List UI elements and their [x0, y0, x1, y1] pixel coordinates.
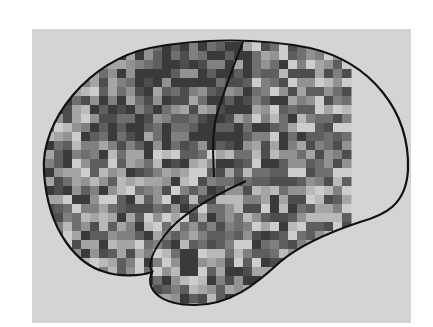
heatmap-cell [99, 168, 109, 178]
heatmap-cell [252, 213, 262, 223]
heatmap-cell [324, 123, 334, 133]
heatmap-cell [252, 51, 262, 61]
heatmap-cell [216, 285, 226, 295]
heatmap-cell [90, 168, 100, 178]
heatmap-cell [171, 60, 181, 70]
heatmap-cell [72, 168, 82, 178]
heatmap-cell [306, 168, 316, 178]
heatmap-cell [288, 123, 298, 133]
heatmap-cell [342, 186, 352, 196]
heatmap-cell [99, 150, 109, 160]
heatmap-cell [198, 249, 208, 259]
heatmap-cell [99, 222, 109, 232]
heatmap-cell [333, 177, 343, 187]
heatmap-cell [135, 186, 145, 196]
heatmap-cell [270, 249, 280, 259]
heatmap-cell [342, 96, 352, 106]
heatmap-cell [315, 150, 325, 160]
heatmap-cell [342, 177, 352, 187]
heatmap-cell [126, 87, 136, 97]
heatmap-cell [324, 114, 334, 124]
heatmap-cell [162, 159, 172, 169]
heatmap-cell [81, 114, 91, 124]
heatmap-cell [324, 78, 334, 88]
heatmap-cell [153, 132, 163, 142]
heatmap-cell [108, 114, 118, 124]
heatmap-cell [297, 69, 307, 79]
heatmap-cell [270, 132, 280, 142]
heatmap-cell [126, 150, 136, 160]
heatmap-cell [144, 141, 154, 151]
heatmap-cell [198, 132, 208, 142]
heatmap-cell [198, 177, 208, 187]
heatmap-cell [324, 141, 334, 151]
heatmap-cell [144, 96, 154, 106]
heatmap-cell [162, 78, 172, 88]
heatmap-cell [90, 186, 100, 196]
heatmap-cell [306, 78, 316, 88]
heatmap-cell [189, 240, 199, 250]
heatmap-cell [207, 285, 217, 295]
heatmap-cell [252, 114, 262, 124]
heatmap-cell [333, 78, 343, 88]
heatmap-cell [162, 141, 172, 151]
heatmap-cell [135, 195, 145, 205]
heatmap-cell [99, 114, 109, 124]
heatmap-cell [216, 78, 226, 88]
heatmap-cell [270, 177, 280, 187]
heatmap-cell [279, 78, 289, 88]
heatmap-cell [252, 132, 262, 142]
heatmap-cell [252, 168, 262, 178]
heatmap-cell [288, 69, 298, 79]
heatmap-cell [108, 87, 118, 97]
heatmap-cell [333, 150, 343, 160]
heatmap-cell [117, 177, 127, 187]
heatmap-cell [297, 51, 307, 61]
heatmap-cell [216, 150, 226, 160]
heatmap-cell [153, 123, 163, 133]
heatmap-cell [198, 222, 208, 232]
heatmap-cell [234, 96, 244, 106]
heatmap-cell [117, 132, 127, 142]
heatmap-cell [162, 69, 172, 79]
heatmap-cell [99, 159, 109, 169]
heatmap-cell [279, 195, 289, 205]
heatmap-cell [72, 186, 82, 196]
heatmap-cell [189, 276, 199, 286]
heatmap-cell [117, 114, 127, 124]
heatmap-cell [261, 96, 271, 106]
heatmap-cell [225, 105, 235, 115]
heatmap-cell [243, 186, 253, 196]
heatmap-cell [144, 132, 154, 142]
heatmap-cell [126, 249, 136, 259]
heatmap-cell [81, 150, 91, 160]
heatmap-cell [207, 51, 217, 61]
heatmap-cell [81, 168, 91, 178]
heatmap-cell [288, 177, 298, 187]
heatmap-cell [54, 123, 64, 133]
heatmap-cell [108, 177, 118, 187]
heatmap-cell [297, 114, 307, 124]
heatmap-cell [117, 213, 127, 223]
heatmap-cell [270, 114, 280, 124]
heatmap-cell [180, 123, 190, 133]
heatmap-cell [189, 69, 199, 79]
heatmap-cell [162, 114, 172, 124]
heatmap-cell [270, 222, 280, 232]
heatmap-cell [117, 231, 127, 241]
heatmap-cell [63, 222, 73, 232]
heatmap-cell [99, 240, 109, 250]
heatmap-cell [54, 168, 64, 178]
heatmap-cell [117, 195, 127, 205]
heatmap-cell [162, 168, 172, 178]
heatmap-cell [261, 159, 271, 169]
heatmap-cell [342, 213, 352, 223]
heatmap-cell [261, 123, 271, 133]
heatmap-cell [243, 159, 253, 169]
heatmap-cell [342, 159, 352, 169]
heatmap-cell [126, 222, 136, 232]
heatmap-cell [216, 231, 226, 241]
heatmap-cell [90, 222, 100, 232]
heatmap-cell [207, 222, 217, 232]
heatmap-cell [225, 51, 235, 61]
